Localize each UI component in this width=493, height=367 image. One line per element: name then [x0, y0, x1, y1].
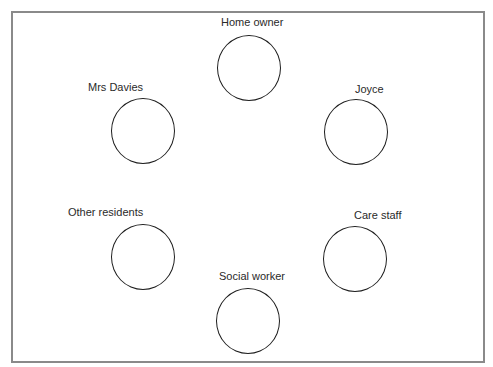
node-label-other-residents: Other residents [68, 206, 143, 218]
node-label-home-owner: Home owner [221, 16, 283, 28]
node-circle-social-worker [216, 288, 280, 354]
node-circle-care-staff [323, 226, 387, 292]
node-label-joyce: Joyce [355, 83, 384, 95]
node-label-social-worker: Social worker [219, 270, 285, 282]
node-circle-mrs-davies [111, 98, 175, 164]
node-label-care-staff: Care staff [354, 209, 402, 221]
node-circle-home-owner [217, 35, 281, 101]
node-label-mrs-davies: Mrs Davies [88, 81, 143, 93]
node-circle-other-residents [111, 224, 175, 290]
node-circle-joyce [324, 99, 388, 165]
